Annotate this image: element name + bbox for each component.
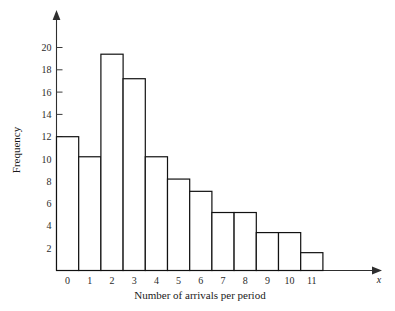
x-tick-label: 1 [87, 275, 92, 286]
x-tick-label: 9 [265, 275, 270, 286]
x-tick-label: 11 [307, 275, 317, 286]
y-tick-label: 18 [42, 64, 52, 75]
histogram-bar [145, 157, 167, 271]
histogram-plot-area: 2468101214161820 01234567891011 Frequenc… [0, 0, 395, 311]
y-axis-arrow-icon [53, 10, 61, 20]
histogram-bar [301, 253, 323, 271]
histogram-bar [256, 233, 278, 271]
bar-group [57, 54, 323, 270]
x-axis-variable-label: x [376, 274, 382, 285]
histogram-bar [234, 213, 256, 271]
histogram-bar [123, 79, 145, 271]
x-tick-label: 5 [176, 275, 181, 286]
y-axis-title: Frequency [10, 126, 22, 173]
y-tick-label: 6 [47, 198, 52, 209]
x-tick-label: 4 [154, 275, 159, 286]
y-tick-label: 8 [47, 176, 52, 187]
y-tick-label: 12 [42, 131, 52, 142]
x-tick-label: 0 [65, 275, 70, 286]
histogram-bar [101, 54, 123, 270]
histogram-figure: 2468101214161820 01234567891011 Frequenc… [0, 0, 395, 311]
histogram-bar [57, 137, 79, 271]
y-tick-label: 14 [42, 109, 52, 120]
x-tick-label-group: 01234567891011 [65, 275, 317, 286]
y-tick-label: 16 [42, 87, 52, 98]
histogram-bar [279, 233, 301, 271]
x-tick-label: 8 [243, 275, 248, 286]
histogram-bar [190, 191, 212, 270]
histogram-bar [212, 213, 234, 271]
y-tick-label: 4 [47, 220, 52, 231]
y-tick-label: 10 [42, 154, 52, 165]
y-tick-label: 20 [42, 42, 52, 53]
histogram-bar [168, 179, 190, 270]
x-tick-label: 10 [285, 275, 295, 286]
x-axis-title: Number of arrivals per period [134, 289, 266, 301]
y-tick-label: 2 [47, 243, 52, 254]
x-tick-label: 3 [132, 275, 137, 286]
x-tick-label: 7 [221, 275, 226, 286]
x-tick-label: 2 [110, 275, 115, 286]
histogram-bar [79, 157, 101, 271]
x-tick-label: 6 [198, 275, 203, 286]
